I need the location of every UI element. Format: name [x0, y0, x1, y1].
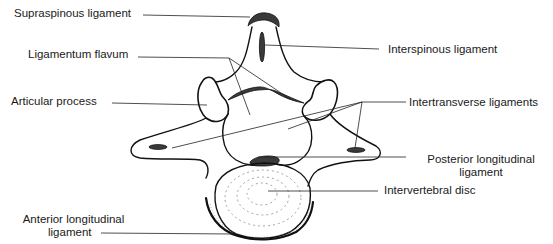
spinous-process-outline: [206, 27, 252, 82]
label-intervertebral-disc: Intervertebral disc: [384, 184, 475, 197]
label-interspinous-ligament: Interspinous ligament: [388, 43, 497, 56]
label-anterior-longitudinal-ligament: Anterior longitudinal ligament: [16, 213, 131, 239]
right-intertransverse-ligament-shape: [347, 148, 365, 153]
disc-ring-mid: [237, 177, 289, 215]
left-articular-process: [198, 77, 229, 121]
label-articular-process: Articular process: [11, 95, 97, 108]
right-transverse-process: [308, 114, 380, 186]
right-articular-process: [302, 80, 337, 120]
interspinous-ligament-shape: [259, 32, 264, 62]
label-anterior-longitudinal-line1: Anterior longitudinal: [16, 213, 131, 226]
anterior-longitudinal-ligament-shape: [206, 198, 313, 239]
label-supraspinous-ligament: Supraspinous ligament: [14, 7, 131, 20]
disc-nucleus: [247, 183, 277, 205]
leader-supraspinous: [143, 15, 250, 17]
leader-intertransverse-right: [355, 102, 362, 148]
label-ligamentum-flavum: Ligamentum flavum: [28, 48, 128, 61]
spinous-process-outline-right: [276, 27, 324, 82]
left-transverse-process: [131, 118, 208, 178]
label-posterior-longitudinal-ligament: Posterior longitudinal ligament: [406, 153, 553, 179]
vertebra-illustration: [0, 0, 553, 244]
intervertebral-disc-outline: [215, 163, 310, 238]
leader-ligamentum-flavum-left: [138, 57, 250, 115]
label-posterior-longitudinal-line2: ligament: [406, 166, 553, 179]
vertebra-ligament-diagram: Supraspinous ligament Ligamentum flavum …: [0, 0, 553, 244]
disc-ring-outer: [225, 170, 301, 226]
ligamentum-flavum-shape: [228, 87, 304, 103]
posterior-longitudinal-ligament-shape: [250, 156, 279, 166]
label-posterior-longitudinal-line1: Posterior longitudinal: [406, 153, 553, 166]
label-intertransverse-ligaments: Intertransverse ligaments: [409, 96, 538, 109]
supraspinous-ligament-shape: [248, 13, 279, 27]
leader-articular-process: [112, 103, 207, 105]
label-anterior-longitudinal-line2: ligament: [16, 226, 131, 239]
left-intertransverse-ligament-shape: [149, 145, 167, 150]
